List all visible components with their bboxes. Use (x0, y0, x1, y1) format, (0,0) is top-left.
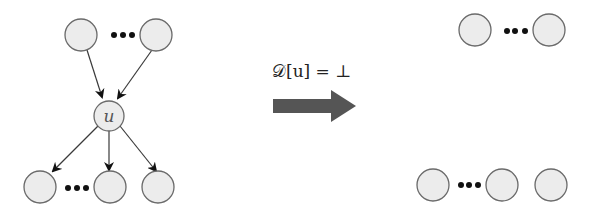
transition-condition-label: 𝒟[u] = ⊥ (272, 61, 351, 81)
ellipsis-dot (65, 185, 71, 191)
diagram-canvas: u 𝒟[u] = ⊥ (0, 0, 595, 217)
diagram-svg: u (0, 0, 595, 217)
edge-parent1-to-u (87, 50, 102, 97)
parent-node-n (533, 14, 565, 46)
ellipsis-dot (504, 28, 510, 34)
left-graph: u (24, 19, 174, 203)
thick-arrow-icon (273, 90, 356, 122)
parent-node-n (140, 19, 172, 51)
edge-parentn-to-u (118, 50, 152, 98)
parent-node-1 (459, 14, 491, 46)
ellipsis-dot (522, 28, 528, 34)
parent-node-1 (65, 19, 97, 51)
ellipsis-dot (466, 182, 472, 188)
ellipsis-dot (512, 28, 518, 34)
child-node-last (142, 171, 174, 203)
child-node-k (94, 171, 126, 203)
edge-u-to-child1 (53, 126, 98, 171)
ellipsis-dot (83, 185, 89, 191)
child-node-last (535, 169, 567, 201)
ellipsis-dot (111, 32, 117, 38)
ellipsis-dot (458, 182, 464, 188)
ellipsis-dot (475, 182, 481, 188)
center-node-label: u (104, 106, 115, 126)
child-node-k (486, 169, 518, 201)
child-node-1 (24, 171, 56, 203)
ellipsis-dot (74, 185, 80, 191)
ellipsis-dot (129, 32, 135, 38)
right-graph (417, 14, 567, 201)
child-node-1 (417, 169, 449, 201)
transition-arrow (273, 90, 356, 122)
ellipsis-dot (120, 32, 126, 38)
edge-u-to-childlast (120, 126, 156, 171)
